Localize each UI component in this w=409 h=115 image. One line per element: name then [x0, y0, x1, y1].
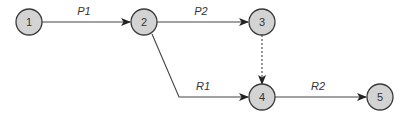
node-3: 3 — [249, 9, 275, 35]
nodes: 1 2 3 4 5 — [16, 9, 393, 110]
edge-p2: P2 — [157, 5, 248, 22]
network-diagram: P1 P2 R1 R2 1 2 — [0, 0, 409, 115]
edge-label-p2: P2 — [194, 5, 207, 17]
node-5: 5 — [367, 84, 393, 110]
node-3-label: 3 — [259, 16, 265, 28]
edge-p1: P1 — [42, 5, 130, 22]
node-1-label: 1 — [26, 16, 32, 28]
node-2-label: 2 — [141, 16, 147, 28]
edges: P1 P2 R1 R2 — [42, 5, 366, 97]
edge-label-r1: R1 — [196, 80, 210, 92]
node-1: 1 — [16, 9, 42, 35]
edge-r2: R2 — [275, 80, 366, 97]
edge-r1: R1 — [152, 34, 248, 97]
node-5-label: 5 — [377, 91, 383, 103]
node-2: 2 — [131, 9, 157, 35]
edge-label-r2: R2 — [311, 80, 325, 92]
node-4-label: 4 — [259, 91, 265, 103]
edge-label-p1: P1 — [77, 5, 90, 17]
node-4: 4 — [249, 84, 275, 110]
